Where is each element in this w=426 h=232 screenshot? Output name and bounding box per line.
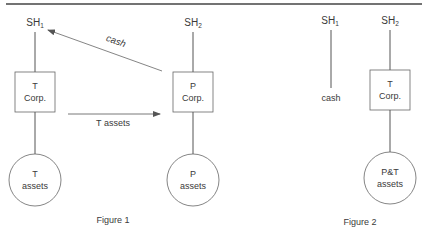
fig2-pt-assets-line2: assets xyxy=(377,179,404,189)
diagram-canvas: SH1 T Corp. T assets SH2 P Corp. P asset… xyxy=(0,0,426,232)
fig1-t-corp-line1: T xyxy=(32,81,38,91)
fig1-t-corp-line2: Corp. xyxy=(24,93,46,103)
fig1-t-assets-arrow-label: T assets xyxy=(96,118,130,128)
fig1-sh2-label: SH2 xyxy=(184,17,202,29)
figure-2: SH1 cash SH2 T Corp. P&T assets Figure 2 xyxy=(321,15,416,227)
fig2-pt-assets-circle xyxy=(364,152,416,204)
fig2-t-corp-box xyxy=(370,70,410,110)
fig1-t-assets-line1: T xyxy=(32,169,38,179)
fig1-p-assets-line2: assets xyxy=(180,181,207,191)
fig1-t-assets-line2: assets xyxy=(22,181,49,191)
fig1-p-corp-line2: Corp. xyxy=(182,93,204,103)
fig2-t-corp-line2: Corp. xyxy=(379,91,401,101)
fig1-cash-label: cash xyxy=(105,32,128,49)
figure-2-caption: Figure 2 xyxy=(343,217,376,227)
fig1-sh1-label: SH1 xyxy=(26,17,44,29)
figure-1: SH1 T Corp. T assets SH2 P Corp. P asset… xyxy=(9,17,219,225)
fig1-t-corp-box xyxy=(15,72,55,112)
fig1-p-corp-line1: P xyxy=(190,81,196,91)
fig2-cash-label: cash xyxy=(321,93,340,103)
fig1-p-assets-circle xyxy=(167,154,219,206)
fig1-p-corp-box xyxy=(173,72,213,112)
fig2-pt-assets-line1: P&T xyxy=(381,167,399,177)
fig1-p-assets-line1: P xyxy=(190,169,196,179)
fig2-t-corp-line1: T xyxy=(387,79,393,89)
fig2-sh1-label: SH1 xyxy=(321,15,339,27)
fig1-cash-arrow xyxy=(48,30,162,71)
fig1-t-assets-circle xyxy=(9,154,61,206)
fig2-sh2-label: SH2 xyxy=(381,15,399,27)
figure-1-caption: Figure 1 xyxy=(96,215,129,225)
